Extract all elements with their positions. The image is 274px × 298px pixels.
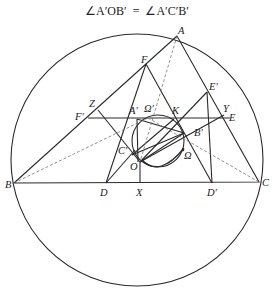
line-f-k-dprime <box>146 64 212 183</box>
geometry-diagram: ∠A′OB′ = ∠A′C′B′ <box>0 0 274 298</box>
label-b-prime: B′ <box>194 128 203 139</box>
dashed-b-omega-prime <box>14 118 148 183</box>
label-f: F <box>141 55 147 66</box>
label-d: D <box>100 188 108 199</box>
label-a-prime: A′ <box>129 106 138 117</box>
label-o: O <box>130 162 138 173</box>
label-c-prime: C′ <box>118 146 127 157</box>
label-omega-prime: Ω′ <box>144 104 154 115</box>
label-a: A <box>178 26 184 37</box>
label-b: B <box>5 180 11 191</box>
label-d-prime: D′ <box>207 188 217 199</box>
line-y-o <box>140 115 224 162</box>
label-omega: Ω <box>184 151 192 162</box>
label-z: Z <box>89 99 95 110</box>
label-k: K <box>172 106 179 117</box>
label-e: E <box>229 113 235 124</box>
small-circle <box>132 115 184 167</box>
label-f-prime: F′ <box>75 112 84 123</box>
label-y: Y <box>223 104 229 115</box>
label-x: X <box>136 188 142 199</box>
label-e-prime: E′ <box>209 82 218 93</box>
line-eprime-dprime <box>207 92 212 183</box>
label-c: C <box>262 178 269 189</box>
figure-svg <box>0 0 274 298</box>
